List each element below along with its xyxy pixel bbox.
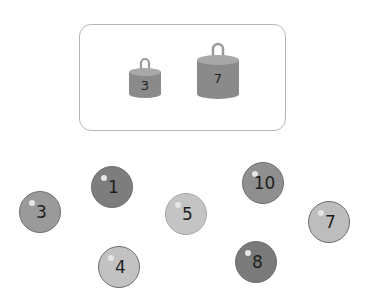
weight-icon (128, 54, 162, 100)
weights-panel (79, 24, 286, 131)
ball-3[interactable]: 3 (19, 191, 61, 233)
ball-10[interactable]: 10 (242, 162, 284, 204)
ball-label: 3 (20, 192, 60, 232)
ball-8[interactable]: 8 (235, 241, 277, 283)
ball-1[interactable]: 1 (91, 166, 133, 208)
ball-label: 7 (309, 202, 349, 242)
ball-label: 4 (99, 247, 139, 287)
ball-label: 5 (166, 194, 206, 234)
ball-label: 8 (236, 242, 276, 282)
weight-label: 7 (196, 71, 240, 86)
ball-4[interactable]: 4 (98, 246, 140, 288)
weight-7[interactable]: 7 (196, 40, 240, 100)
ball-label: 1 (92, 167, 132, 207)
weight-label: 3 (128, 78, 162, 93)
ball-5[interactable]: 5 (165, 193, 207, 235)
ball-label: 10 (243, 163, 283, 203)
weight-icon (196, 40, 240, 100)
ball-7[interactable]: 7 (308, 201, 350, 243)
weight-3[interactable]: 3 (128, 54, 162, 100)
